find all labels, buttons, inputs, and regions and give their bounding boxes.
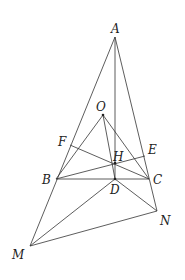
label-E: E <box>147 143 157 157</box>
label-M: M <box>11 248 25 262</box>
label-C: C <box>153 173 162 187</box>
segment-BE <box>56 156 145 179</box>
label-F: F <box>57 135 67 149</box>
label-D: D <box>109 183 120 197</box>
label-N: N <box>159 214 171 228</box>
label-B: B <box>41 173 51 187</box>
geometry-diagram: AOFHEBDCNM <box>0 0 185 280</box>
segment-MD <box>30 179 115 246</box>
point-D <box>114 178 117 181</box>
label-O: O <box>96 100 106 114</box>
label-H: H <box>112 150 124 164</box>
point-O <box>102 114 105 117</box>
labels: AOFHEBDCNM <box>11 22 171 262</box>
segment-AM <box>30 37 115 246</box>
segments <box>30 37 157 246</box>
segment-AN <box>115 37 157 211</box>
label-A: A <box>110 22 120 36</box>
segment-OD <box>103 115 115 179</box>
segment-MN <box>30 211 157 246</box>
